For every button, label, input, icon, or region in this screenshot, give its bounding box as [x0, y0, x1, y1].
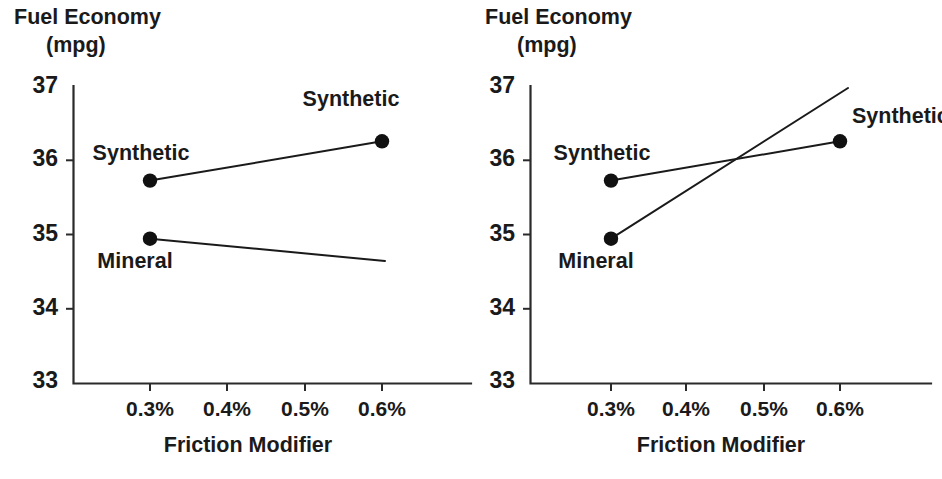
data-point-synthetic-03 — [143, 173, 157, 187]
data-point-mineral-03 — [143, 232, 157, 246]
axis-lines — [531, 86, 932, 384]
x-tick-label-04: 0.4% — [203, 397, 251, 420]
axis-lines — [74, 86, 472, 384]
interaction-plot-figure: Fuel Economy (mpg) 37 36 35 34 33 0.3% 0… — [0, 0, 942, 479]
series-label-mineral: Mineral — [558, 249, 633, 273]
x-tick-label-05: 0.5% — [281, 397, 329, 420]
series-label-synthetic-right: Synthetic — [303, 87, 400, 111]
y-axis-title-line1: Fuel Economy — [485, 5, 632, 29]
chart-svg-left: Fuel Economy (mpg) 37 36 35 34 33 0.3% 0… — [0, 0, 471, 479]
x-tick-label-03: 0.3% — [587, 397, 635, 420]
data-point-mineral-03 — [604, 232, 618, 246]
data-point-synthetic-06 — [833, 134, 847, 148]
chart-panel-left: Fuel Economy (mpg) 37 36 35 34 33 0.3% 0… — [0, 0, 471, 479]
y-tick-label-33: 33 — [32, 367, 58, 393]
series-label-mineral: Mineral — [97, 249, 172, 273]
chart-svg-right: Fuel Economy (mpg) 37 36 35 34 33 0.3% 0… — [471, 0, 942, 479]
y-tick-label-36: 36 — [489, 145, 515, 171]
data-point-synthetic-06 — [375, 134, 389, 148]
y-tick-label-34: 34 — [489, 294, 515, 320]
y-tick-label-37: 37 — [489, 72, 515, 98]
y-tick-label-36: 36 — [32, 145, 58, 171]
series-label-synthetic-left: Synthetic — [554, 141, 651, 165]
y-tick-label-37: 37 — [32, 72, 58, 98]
y-tick-label-33: 33 — [489, 367, 515, 393]
y-axis-title-line1: Fuel Economy — [14, 5, 161, 29]
y-tick-label-34: 34 — [32, 294, 58, 320]
x-tick-label-06: 0.6% — [358, 397, 406, 420]
x-tick-label-03: 0.3% — [126, 397, 174, 420]
x-tick-label-05: 0.5% — [740, 397, 788, 420]
series-label-synthetic-right: Synthetic — [852, 104, 942, 128]
y-tick-label-35: 35 — [32, 220, 58, 246]
data-point-synthetic-03 — [604, 173, 618, 187]
x-axis-title: Friction Modifier — [164, 433, 333, 457]
y-tick-label-35: 35 — [489, 220, 515, 246]
series-line-mineral — [150, 239, 385, 261]
y-axis-title-line2: (mpg) — [46, 33, 106, 57]
x-tick-label-06: 0.6% — [816, 397, 864, 420]
y-axis-title-line2: (mpg) — [517, 33, 577, 57]
series-label-synthetic-left: Synthetic — [93, 141, 190, 165]
x-axis-title: Friction Modifier — [637, 433, 806, 457]
x-tick-label-04: 0.4% — [662, 397, 710, 420]
chart-panel-right: Fuel Economy (mpg) 37 36 35 34 33 0.3% 0… — [471, 0, 942, 479]
